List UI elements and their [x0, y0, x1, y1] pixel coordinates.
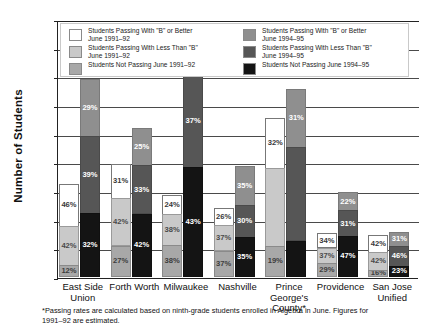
bar-segment-percent-label: 42% — [133, 241, 151, 249]
legend-item[interactable]: Students Passing With Less Than "B"June … — [241, 45, 407, 61]
bar-segment: 31% — [111, 164, 131, 200]
bar-segment-percent-label: 31% — [112, 177, 130, 185]
bar-segment: 42% — [132, 214, 152, 277]
legend-label-line-2: June 1994–95 — [262, 35, 366, 43]
legend-label-line-1: Students Not Passing June 1994–95 — [262, 61, 369, 69]
bar-segment: 42% — [59, 226, 79, 266]
bar-segment: 38% — [162, 214, 182, 246]
legend-label-line-1: Students Passing With "B" or Better — [262, 27, 366, 35]
stacked-bar[interactable]: 24%38%38% — [162, 196, 182, 279]
bar-segment-percent-label: 29% — [81, 104, 99, 112]
bar-segment-percent-label: 33% — [133, 186, 151, 194]
bar-segment: 32% — [265, 118, 285, 169]
stacked-bar[interactable]: 35%30%35% — [235, 167, 255, 279]
bar-segment-percent-label: 12% — [60, 267, 78, 275]
bar-segment-percent-label: 32% — [81, 241, 99, 249]
legend-swatch — [243, 29, 256, 41]
bar-segment-percent-label: 38% — [163, 257, 181, 265]
bar-segment: 35% — [235, 237, 255, 276]
bar-segment: 24% — [162, 195, 182, 215]
bar-segment: 27% — [111, 246, 131, 277]
bar-segment: 25% — [132, 128, 152, 166]
bar-segment-percent-label: 31% — [287, 114, 305, 122]
legend-label: Students Passing With "B" or BetterJune … — [88, 27, 192, 43]
bar-segment — [286, 241, 306, 277]
bar-segment: 12% — [59, 265, 79, 276]
x-axis-category-line: Unified — [360, 293, 424, 304]
bar-segment: 42% — [368, 252, 388, 270]
x-axis-category-line: San Jose — [360, 282, 424, 293]
stacked-bar[interactable]: 31%42%27% — [111, 164, 131, 279]
bar-segment: 42% — [111, 198, 131, 246]
bar-segment-percent-label: 46% — [60, 201, 78, 209]
stacked-bar[interactable]: 34%37%29% — [317, 234, 337, 279]
legend-item[interactable]: Students Not Passing June 1994–95 — [241, 62, 407, 78]
bar-segment-percent-label: 23% — [390, 267, 408, 275]
bar-segment: 22% — [338, 192, 358, 211]
bar-segment: 37% — [317, 248, 337, 265]
stacked-bar[interactable]: 42%42%16% — [368, 236, 388, 279]
bar-segment-percent-label: 29% — [318, 266, 336, 274]
legend-item[interactable]: Students Passing With "B" or BetterJune … — [67, 28, 239, 44]
legend-label-line-1: Students Not Passing June 1991–92 — [88, 61, 195, 69]
bar-segment-percent-label: 30% — [236, 217, 254, 225]
bar-segment: 26% — [214, 208, 234, 226]
bar-segment-percent-label: 27% — [112, 257, 130, 265]
bar-segment: 38% — [162, 245, 182, 277]
footnote-line-1: *Passing rates are calculated based on n… — [42, 306, 414, 316]
bar-segment: 33% — [132, 165, 152, 215]
bar-segment-percent-label: 22% — [339, 198, 357, 206]
bar-segment-percent-label: 24% — [163, 201, 181, 209]
bar-segment: 42% — [368, 235, 388, 253]
legend-item[interactable]: Students Passing With "B" or BetterJune … — [241, 28, 407, 44]
bar-segment: 30% — [235, 205, 255, 239]
stacked-bar[interactable]: 29%39%32% — [80, 80, 100, 279]
bar-segment-percent-label: 42% — [60, 242, 78, 250]
legend-label: Students Passing With "B" or BetterJune … — [262, 27, 366, 43]
bar-segment: 16% — [368, 270, 388, 277]
bar-segment: 23% — [389, 266, 409, 277]
bar-segment: 46% — [389, 246, 409, 267]
stacked-bar[interactable]: 26%37%37% — [214, 208, 234, 279]
chart-legend: Students Passing With "B" or BetterJune … — [60, 23, 409, 77]
chart-root: Number of Students 050010001500200025003… — [0, 0, 424, 331]
x-axis-category-line: Union — [51, 293, 115, 304]
bar-segment-percent-label: 31% — [339, 220, 357, 228]
x-axis-category-label: San JoseUnified — [360, 282, 424, 303]
legend-column-1991: Students Passing With "B" or BetterJune … — [67, 28, 239, 79]
bar-segment — [265, 168, 285, 247]
bar-segment: 39% — [80, 136, 100, 214]
stacked-bar[interactable]: 31%46%23% — [389, 233, 409, 279]
stacked-bar[interactable]: 31% — [286, 90, 306, 279]
bar-segment-percent-label: 37% — [215, 234, 233, 242]
legend-swatch — [243, 46, 256, 58]
bar-segment-percent-label: 39% — [81, 171, 99, 179]
stacked-bar[interactable]: 32%19% — [265, 118, 285, 279]
bar-segment-percent-label: 19% — [266, 257, 284, 265]
bar-segment: 43% — [183, 167, 203, 276]
bar-segment-percent-label: 32% — [266, 139, 284, 147]
stacked-bar[interactable]: 25%33%42% — [132, 129, 152, 279]
bar-segment-percent-label: 35% — [236, 253, 254, 261]
legend-item[interactable]: Students Passing With Less Than "B"June … — [67, 45, 239, 61]
bar-segment: 37% — [183, 74, 203, 168]
bar-segment-percent-label: 31% — [390, 235, 408, 243]
legend-swatch — [69, 63, 82, 75]
bar-segment: 37% — [214, 225, 234, 251]
legend-item[interactable]: Students Not Passing June 1991–92 — [67, 62, 239, 78]
bar-segment: 31% — [338, 210, 358, 237]
legend-label: Students Passing With Less Than "B"June … — [88, 44, 198, 60]
legend-label-line-1: Students Passing With "B" or Better — [88, 27, 192, 35]
bar-segment: 29% — [317, 263, 337, 276]
bar-segment-percent-label: 47% — [339, 252, 357, 260]
legend-label: Students Passing With Less Than "B"June … — [262, 44, 372, 60]
bar-segment-percent-label: 42% — [112, 218, 130, 226]
legend-swatch — [243, 63, 256, 75]
bar-segment: 46% — [59, 184, 79, 228]
bar-segment-percent-label: 37% — [318, 252, 336, 260]
bar-segment-percent-label: 46% — [390, 252, 408, 260]
bar-segment: 31% — [286, 89, 306, 148]
bar-segment: 19% — [265, 246, 285, 277]
stacked-bar[interactable]: 46%42%12% — [59, 184, 79, 279]
stacked-bar[interactable]: 22%31%47% — [338, 193, 358, 279]
